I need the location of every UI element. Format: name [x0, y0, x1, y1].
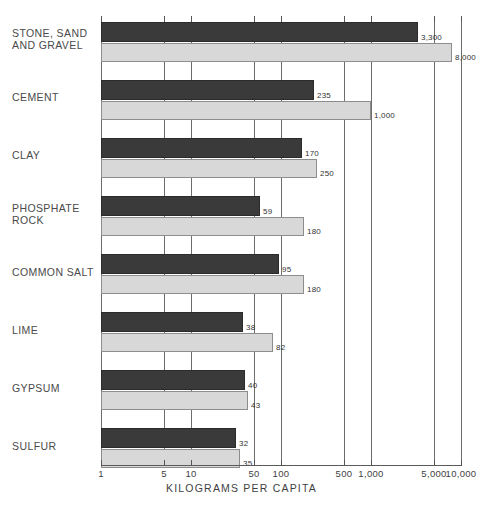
value-label-dark-3: 59 — [263, 207, 272, 216]
category-label-sulfur: SULFUR — [12, 440, 104, 452]
category-label-gypsum: GYPSUM — [12, 382, 104, 394]
bottom-tick-10000 — [461, 460, 462, 466]
x-tick-label-5000: 5,000 — [421, 468, 446, 479]
value-label-dark-1: 235 — [317, 91, 331, 100]
value-label-light-0: 8,000 — [455, 53, 476, 62]
bottom-tick-500 — [344, 460, 345, 466]
bar-light-2 — [101, 159, 317, 178]
x-tick-label-1: 1 — [98, 468, 104, 479]
bottom-tick-50 — [254, 460, 255, 466]
bar-light-4 — [101, 275, 304, 294]
bar-dark-5 — [101, 312, 243, 332]
category-label-lime: LIME — [12, 324, 104, 336]
value-label-dark-4: 95 — [282, 265, 291, 274]
top-tick-10000 — [461, 16, 462, 22]
bar-light-3 — [101, 217, 304, 236]
value-label-light-7: 35 — [243, 459, 252, 468]
x-axis-title: KILOGRAMS PER CAPITA — [0, 482, 483, 494]
x-tick-label-50: 50 — [248, 468, 259, 479]
bottom-tick-10 — [191, 460, 192, 466]
bottom-tick-5000 — [434, 460, 435, 466]
x-tick-label-500: 500 — [336, 468, 353, 479]
bar-dark-0 — [101, 22, 418, 42]
bar-light-1 — [101, 101, 371, 120]
x-tick-label-100: 100 — [273, 468, 290, 479]
gridline-1000 — [371, 16, 372, 465]
value-label-light-1: 1,000 — [374, 111, 395, 120]
value-label-light-3: 180 — [307, 227, 321, 236]
value-label-light-2: 250 — [320, 169, 334, 178]
bar-dark-2 — [101, 138, 302, 158]
top-tick-5000 — [434, 16, 435, 22]
category-label-common-salt: COMMON SALT — [12, 266, 104, 278]
bottom-tick-1 — [101, 460, 102, 466]
bottom-tick-1000 — [371, 460, 372, 466]
value-label-dark-5: 38 — [246, 323, 255, 332]
bar-dark-3 — [101, 196, 260, 216]
horizontal-bar-chart: STONE, SAND AND GRAVEL CEMENT CLAY PHOSP… — [0, 0, 483, 508]
x-tick-label-5: 5 — [161, 468, 167, 479]
bottom-tick-5 — [164, 460, 165, 466]
bar-dark-7 — [101, 428, 236, 448]
bar-light-6 — [101, 391, 248, 410]
value-label-dark-2: 170 — [305, 149, 319, 158]
category-label-phosphate-rock: PHOSPHATE ROCK — [12, 202, 104, 226]
category-label-clay: CLAY — [12, 149, 104, 161]
bar-dark-6 — [101, 370, 245, 390]
x-tick-label-10: 10 — [185, 468, 196, 479]
x-tick-label-10000: 10,000 — [446, 468, 477, 479]
bar-light-0 — [101, 43, 452, 62]
bar-dark-1 — [101, 80, 314, 100]
value-label-dark-0: 3,300 — [421, 33, 442, 42]
value-label-dark-7: 32 — [239, 439, 248, 448]
x-tick-label-1000: 1,000 — [358, 468, 383, 479]
value-label-dark-6: 40 — [248, 381, 257, 390]
bottom-tick-100 — [281, 460, 282, 466]
gridline-10000 — [461, 16, 462, 465]
gridline-5000 — [434, 16, 435, 465]
value-label-light-6: 43 — [251, 401, 260, 410]
bar-dark-4 — [101, 254, 279, 274]
gridline-500 — [344, 16, 345, 465]
category-label-cement: CEMENT — [12, 91, 104, 103]
value-label-light-4: 180 — [307, 285, 321, 294]
category-label-stone-sand-and-gravel: STONE, SAND AND GRAVEL — [12, 27, 104, 51]
value-label-light-5: 82 — [276, 343, 285, 352]
bar-light-5 — [101, 333, 273, 352]
